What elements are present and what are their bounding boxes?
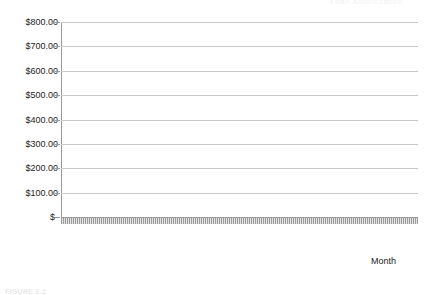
x-axis-tick-band — [61, 218, 418, 224]
series-lines — [61, 22, 418, 217]
y-axis-tick-mark — [55, 22, 60, 23]
y-axis-tick-label: $200.00 — [0, 164, 58, 173]
y-axis-tick-label: $300.00 — [0, 140, 58, 149]
y-axis-tick-label: $- — [0, 213, 58, 222]
y-axis-tick-mark — [55, 120, 60, 121]
y-axis-tick-mark — [55, 168, 60, 169]
y-axis-tick-mark — [55, 144, 60, 145]
y-axis-tick-label: $100.00 — [0, 189, 58, 198]
y-axis-tick-mark — [55, 71, 60, 72]
y-axis-tick-label: $600.00 — [0, 67, 58, 76]
y-axis-tick-mark — [55, 46, 60, 47]
cropped-caption-fragment: FIGURE 2.2 — [5, 288, 46, 295]
x-axis-label: Month — [371, 256, 396, 266]
cropped-title-fragment: Loan Amortization — [330, 0, 403, 6]
y-axis-tick-mark — [55, 217, 60, 218]
y-axis-tick-label: $700.00 — [0, 42, 58, 51]
y-axis-tick-label: $400.00 — [0, 116, 58, 125]
plot-area — [61, 22, 418, 217]
y-axis-tick-mark — [55, 95, 60, 96]
y-axis-tick-label: $500.00 — [0, 91, 58, 100]
y-axis-tick-label: $800.00 — [0, 18, 58, 27]
y-axis-tick-mark — [55, 193, 60, 194]
x-axis-tick-group — [61, 225, 418, 255]
